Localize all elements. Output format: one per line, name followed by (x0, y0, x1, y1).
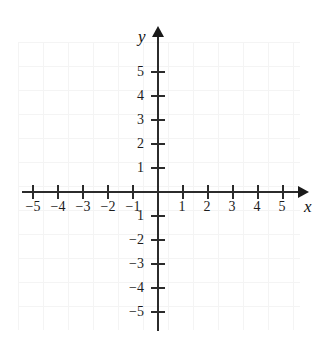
x-tick-plus-1 (182, 185, 184, 199)
y-tick-minus-4 (151, 287, 165, 289)
x-tick-label-plus-3: 3 (224, 200, 240, 214)
x-tick-minus-2 (107, 185, 109, 199)
y-tick-label-plus-1: 1 (120, 161, 144, 175)
y-tick-label-plus-3: 3 (120, 113, 144, 127)
x-tick-plus-4 (257, 185, 259, 199)
x-tick-label-plus-1: 1 (174, 200, 190, 214)
y-tick-label-minus-5: −5 (120, 305, 144, 319)
y-tick-label-minus-3: −3 (120, 257, 144, 271)
y-tick-label-plus-5: 5 (120, 65, 144, 79)
y-tick-label-minus-4: −4 (120, 281, 144, 295)
x-axis-label: x (304, 198, 312, 215)
x-tick-label-minus-5: −5 (21, 200, 45, 214)
x-tick-label-minus-3: −3 (71, 200, 95, 214)
x-tick-label-minus-2: −2 (96, 200, 120, 214)
x-tick-minus-1 (132, 185, 134, 199)
y-tick-plus-4 (151, 95, 165, 97)
x-tick-label-plus-5: 5 (274, 200, 290, 214)
y-tick-plus-5 (151, 71, 165, 73)
y-tick-plus-2 (151, 143, 165, 145)
x-tick-minus-5 (32, 185, 34, 199)
y-tick-minus-5 (151, 311, 165, 313)
y-tick-label-minus-1: 1 (120, 209, 144, 223)
x-tick-plus-5 (282, 185, 284, 199)
x-tick-label-minus-4: −4 (46, 200, 70, 214)
y-tick-label-plus-4: 4 (120, 89, 144, 103)
y-axis-label: y (138, 28, 146, 45)
y-tick-plus-3 (151, 119, 165, 121)
y-tick-plus-1 (151, 167, 165, 169)
y-tick-minus-1 (151, 215, 165, 217)
x-tick-plus-3 (232, 185, 234, 199)
y-axis-arrowhead-icon (152, 26, 164, 37)
x-tick-minus-3 (82, 185, 84, 199)
y-tick-label-plus-2: 2 (120, 137, 144, 151)
coordinate-plane: −5 −4 −3 −2 −1 1 2 3 4 5 5 4 3 2 1 1 −2 … (0, 0, 323, 342)
x-tick-plus-2 (207, 185, 209, 199)
y-tick-minus-3 (151, 263, 165, 265)
y-tick-label-minus-2: −2 (120, 233, 144, 247)
x-tick-label-plus-2: 2 (199, 200, 215, 214)
y-tick-minus-2 (151, 239, 165, 241)
x-tick-label-plus-4: 4 (249, 200, 265, 214)
x-tick-minus-4 (57, 185, 59, 199)
